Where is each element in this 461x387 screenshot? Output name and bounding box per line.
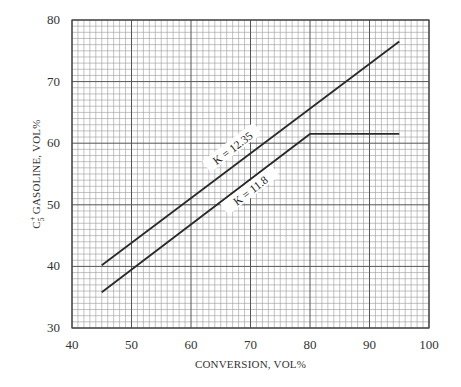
y-tick-label: 60 <box>47 135 60 150</box>
x-tick-label: 40 <box>66 337 79 352</box>
y-axis-tick-labels: 304050607080 <box>47 12 60 335</box>
y-tick-label: 40 <box>47 258 60 273</box>
x-tick-label: 100 <box>419 337 439 352</box>
series-annotations: K = 12.35K = 11.8 <box>202 123 279 215</box>
y-tick-label: 70 <box>47 74 60 89</box>
y-tick-label: 80 <box>47 12 60 27</box>
y-tick-label: 50 <box>47 197 60 212</box>
x-tick-label: 60 <box>185 337 198 352</box>
x-tick-label: 80 <box>304 337 317 352</box>
x-tick-label: 70 <box>244 337 257 352</box>
x-axis-tick-labels: 405060708090100 <box>66 337 439 352</box>
x-axis-title: CONVERSION, VOL% <box>195 358 306 370</box>
y-axis-title-rest: GASOLINE, VOL% <box>30 119 42 217</box>
x-tick-label: 90 <box>363 337 376 352</box>
y-tick-label: 30 <box>47 320 60 335</box>
x-tick-label: 50 <box>125 337 138 352</box>
y-axis-title: C+5 GASOLINE, VOL% <box>28 119 46 228</box>
chart: 405060708090100 304050607080 K = 12.35K … <box>0 0 461 387</box>
